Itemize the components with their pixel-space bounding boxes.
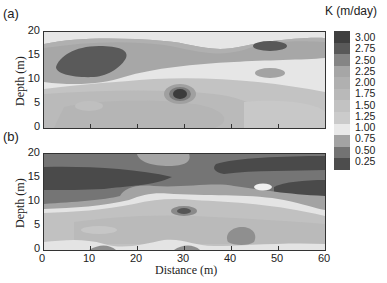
xtick-mark <box>231 124 232 128</box>
legend-swatch <box>334 31 350 43</box>
ytick-label: 10 <box>28 73 40 84</box>
legend-swatch <box>334 54 350 66</box>
x-axis-label: Distance (m) <box>155 263 217 278</box>
xtick-mark <box>231 246 232 250</box>
ytick-label: 20 <box>28 25 40 36</box>
panel-a-ylabel: Depth (m) <box>13 56 28 106</box>
legend-title: K (m/day) <box>325 4 377 18</box>
xtick-label: 50 <box>271 253 283 264</box>
xtick-mark <box>278 246 279 250</box>
xtick-mark <box>90 124 91 128</box>
legend-swatch <box>334 77 350 89</box>
panel-b-plot <box>43 153 326 251</box>
xtick-label: 60 <box>318 253 330 264</box>
legend-colorbar <box>334 31 350 170</box>
ytick-label: 0 <box>34 121 40 132</box>
legend-label: 2.75 <box>355 43 387 54</box>
xtick-label: 10 <box>83 253 95 264</box>
legend-swatch <box>334 89 350 101</box>
legend-label: 0.25 <box>355 156 387 167</box>
legend-swatch <box>334 100 350 112</box>
ytick-label: 20 <box>28 147 40 158</box>
legend-labels: 3.00 2.75 2.50 2.25 2.00 1.75 1.50 1.25 … <box>355 32 387 167</box>
legend-swatch <box>334 112 350 124</box>
ytick-label: 5 <box>34 219 40 230</box>
panel-a-label: (a) <box>3 6 19 21</box>
legend-swatch <box>334 43 350 55</box>
legend-label: 0.75 <box>355 133 387 144</box>
ytick-label: 15 <box>28 171 40 182</box>
ytick-label: 5 <box>34 97 40 108</box>
legend-swatch <box>334 147 350 159</box>
xtick-mark <box>184 124 185 128</box>
panel-b-label: (b) <box>3 129 19 144</box>
xtick-label: 40 <box>224 253 236 264</box>
panel-a-contours <box>44 32 325 128</box>
xtick-label: 20 <box>130 253 142 264</box>
panel-a-plot <box>43 31 326 129</box>
xtick-mark <box>278 124 279 128</box>
panel-b-contours <box>44 154 325 250</box>
legend-swatch <box>334 66 350 78</box>
xtick-label: 0 <box>39 253 45 264</box>
xtick-mark <box>90 246 91 250</box>
legend-swatch <box>334 135 350 147</box>
panel-b-ylabel: Depth (m) <box>13 178 28 228</box>
xtick-mark <box>137 246 138 250</box>
ytick-label: 10 <box>28 195 40 206</box>
legend-swatch <box>334 158 350 170</box>
xtick-mark <box>184 246 185 250</box>
legend-swatch <box>334 124 350 136</box>
xtick-mark <box>137 124 138 128</box>
ytick-label: 15 <box>28 49 40 60</box>
legend-label: 1.75 <box>355 88 387 99</box>
